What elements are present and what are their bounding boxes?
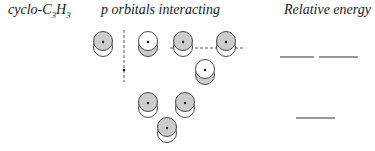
- nucleus-dot: [225, 41, 227, 43]
- p-orbital-mid-5: [196, 60, 215, 85]
- p-orbital-top-left: [94, 32, 113, 57]
- p-orbital-low-3: [158, 118, 177, 143]
- nucleus-dot: [166, 127, 168, 129]
- node-dot: [123, 69, 126, 72]
- p-orbital-low-2: [176, 93, 195, 118]
- p-orbital-low-1: [139, 93, 158, 118]
- nucleus-dot: [147, 41, 149, 43]
- p-orbital-top-2: [139, 32, 158, 57]
- nucleus-dot: [182, 41, 184, 43]
- orbital-diagram: [0, 0, 375, 151]
- nucleus-dot: [184, 102, 186, 104]
- p-orbital-top-4: [217, 32, 236, 57]
- nucleus-dot: [147, 102, 149, 104]
- p-orbital-top-3: [174, 32, 193, 57]
- nucleus-dot: [102, 41, 104, 43]
- nucleus-dot: [204, 69, 206, 71]
